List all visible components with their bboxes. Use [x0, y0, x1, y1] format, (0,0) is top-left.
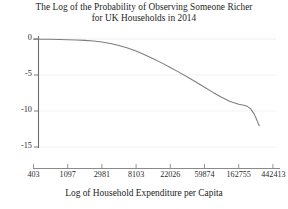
y-tick-label-5: -5 [9, 69, 32, 78]
chart-figure: The Log of the Probability of Observing … [0, 0, 288, 209]
x-axis-line [33, 164, 280, 169]
y-tick-label-15: -15 [5, 141, 32, 150]
y-tick-label-10: -10 [5, 105, 32, 114]
y-tick-label-0: 0 [14, 33, 32, 42]
y-axis-line [34, 36, 39, 148]
gridlines [38, 39, 276, 147]
x-axis-title: Log of Household Expenditure per Capita [0, 188, 288, 198]
data-series-line [34, 39, 260, 126]
x-tick-label-442413: 442413 [252, 170, 288, 179]
